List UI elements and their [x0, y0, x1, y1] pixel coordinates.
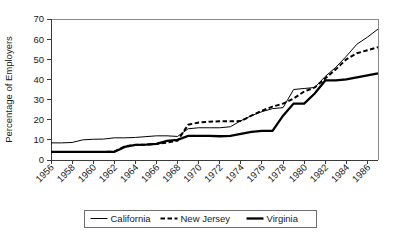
x-tick-label: 1976 [244, 162, 267, 185]
x-tick-label: 1974 [223, 162, 246, 185]
x-tick-label: 1984 [329, 162, 352, 185]
y-tick-label: 50 [33, 54, 44, 65]
y-axis-ticks: 010203040506070 [33, 13, 51, 165]
x-axis-ticks: 1956195819601962196419661968197019721974… [33, 160, 372, 184]
y-axis-title-text: Percentage of Employers [3, 36, 14, 143]
x-tick-label: 1962 [96, 162, 119, 185]
y-axis-title: Percentage of Employers [3, 36, 14, 143]
chart-canvas: 010203040506070 195619581960196219641966… [0, 0, 401, 241]
y-tick-label: 60 [33, 34, 44, 45]
x-tick-label: 1972 [202, 162, 225, 185]
y-tick-label: 30 [33, 94, 44, 105]
chart-legend: CaliforniaNew JerseyVirginia [85, 210, 317, 227]
x-tick-label: 1986 [350, 162, 373, 185]
x-tick-label: 1980 [286, 162, 309, 185]
x-tick-label: 1966 [139, 162, 162, 185]
x-tick-label: 1964 [118, 162, 141, 185]
x-tick-label: 1970 [181, 162, 204, 185]
series-group [51, 29, 378, 152]
series-line-virginia [51, 73, 378, 152]
y-tick-label: 70 [33, 13, 44, 24]
legend-label-new-jersey: New Jersey [181, 213, 231, 224]
x-tick-label: 1968 [160, 162, 183, 185]
y-tick-label: 10 [33, 134, 44, 145]
x-tick-label: 1960 [75, 162, 98, 185]
legend-label-virginia: Virginia [267, 213, 299, 224]
x-tick-label: 1956 [33, 162, 56, 185]
y-tick-label: 20 [33, 114, 44, 125]
line-chart: 010203040506070 195619581960196219641966… [0, 0, 401, 241]
series-line-california [51, 29, 378, 143]
x-tick-label: 1958 [54, 162, 77, 185]
y-tick-label: 40 [33, 74, 44, 85]
legend-label-california: California [111, 213, 152, 224]
x-tick-label: 1978 [265, 162, 288, 185]
y-tick-label: 0 [39, 154, 44, 165]
x-tick-label: 1982 [307, 162, 330, 185]
